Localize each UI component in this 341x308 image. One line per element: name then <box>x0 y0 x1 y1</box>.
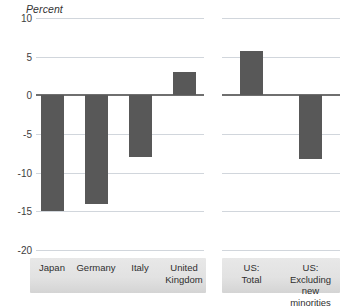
plot-area: 1050-5-10-15-20 <box>0 18 341 250</box>
y-tick-label--10: -10 <box>2 167 32 178</box>
y-tick-label-0: 0 <box>2 90 32 101</box>
category-label: US: Excluding new minorities <box>281 262 340 308</box>
category-label-box-left: JapanGermanyItalyUnited Kingdom <box>30 258 206 293</box>
gridline-left-10 <box>36 18 204 19</box>
category-label: Japan <box>30 262 74 274</box>
bar <box>299 95 322 158</box>
gridline-left-5 <box>36 57 204 58</box>
y-tick-label-10: 10 <box>2 13 32 24</box>
gridline-right--10 <box>222 173 340 174</box>
y-tick-label--5: -5 <box>2 129 32 140</box>
category-label-box-right: US: TotalUS: Excluding new minorities <box>222 258 340 293</box>
bar <box>41 95 64 211</box>
y-tick-label--20: -20 <box>2 245 32 256</box>
category-label: United Kingdom <box>162 262 206 285</box>
bar <box>173 72 196 95</box>
gridline-right--20 <box>222 250 340 251</box>
category-label: Germany <box>74 262 118 274</box>
bar <box>129 95 152 157</box>
y-tick-label--15: -15 <box>2 206 32 217</box>
category-label: US: Total <box>222 262 281 285</box>
gridline-right--5 <box>222 134 340 135</box>
gridline-right--15 <box>222 211 340 212</box>
bar <box>85 95 108 203</box>
bar <box>240 51 263 95</box>
gridline-left--15 <box>36 211 204 212</box>
y-tick-label-5: 5 <box>2 51 32 62</box>
category-label: Italy <box>118 262 162 274</box>
gridline-left--20 <box>36 250 204 251</box>
gridline-right-10 <box>222 18 340 19</box>
